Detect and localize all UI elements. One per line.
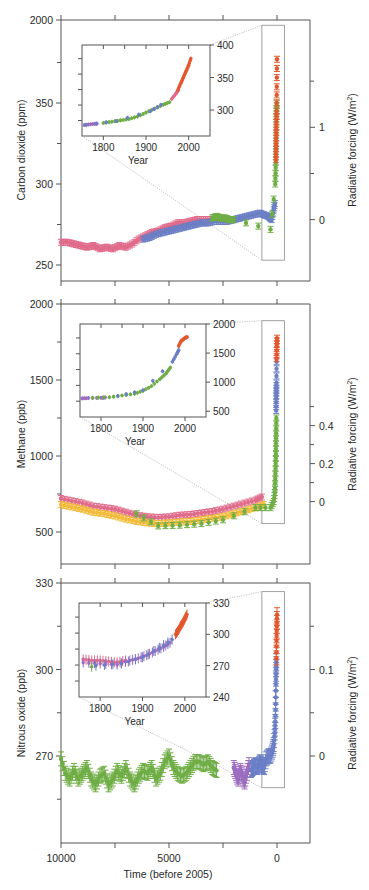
data-point <box>274 456 278 460</box>
right-y-tick-label: 0.2 <box>319 458 334 470</box>
inset-data-point <box>159 103 163 107</box>
data-point <box>149 520 153 524</box>
inset-data-point <box>94 122 98 126</box>
y-tick-label: 1000 <box>30 450 54 462</box>
inset-y-tick-label: 300 <box>217 105 234 116</box>
data-point <box>268 227 272 231</box>
inset-x-tick-label: 1800 <box>92 142 115 153</box>
data-point <box>274 136 278 140</box>
y-tick-label: 1500 <box>30 374 54 386</box>
data-point <box>275 85 279 89</box>
label-part: ) <box>346 93 358 97</box>
data-point <box>275 75 279 79</box>
inset-y-tick-label: 330 <box>213 598 230 609</box>
right-y-tick-label: 0.4 <box>319 420 334 432</box>
inset-x-tick-label: 1900 <box>132 423 155 434</box>
data-point <box>273 477 277 481</box>
inset-data-point <box>141 388 145 392</box>
series <box>140 200 278 242</box>
data-point <box>274 446 278 450</box>
data-point <box>274 152 278 156</box>
data-point <box>270 212 274 216</box>
y-tick-label: 270 <box>35 750 53 762</box>
inset-data-point <box>98 662 102 666</box>
data-point <box>271 197 275 201</box>
inset-data-point <box>124 392 128 396</box>
inset-data-point <box>87 396 91 400</box>
data-point <box>274 441 278 445</box>
data-point <box>214 519 218 523</box>
data-point <box>274 367 278 371</box>
inset-data-point <box>158 646 162 650</box>
data-point <box>178 523 182 527</box>
data-point <box>275 66 279 70</box>
label-part: Radiative forcing (W/m <box>346 663 358 769</box>
data-point <box>274 120 278 124</box>
inset-data-point <box>146 652 150 656</box>
right-axis-label: Radiative forcing (W/m2) <box>346 377 358 491</box>
y-axis-label: Methane (ppb) <box>15 400 27 468</box>
series <box>273 56 280 162</box>
inset-data-point <box>150 384 154 388</box>
inset-y-tick-label: 270 <box>213 661 230 672</box>
data-point <box>274 147 278 151</box>
y-tick-label: 2000 <box>30 14 54 26</box>
data-point <box>232 514 236 518</box>
data-point <box>221 518 225 522</box>
inset-x-tick-label: 1800 <box>89 703 112 714</box>
inset-y-tick-label: 350 <box>217 73 234 84</box>
data-point <box>275 93 279 97</box>
data-point <box>142 516 146 520</box>
data-point <box>273 176 277 180</box>
y-tick-label: 2000 <box>30 298 54 310</box>
right-y-tick-label: 0 <box>319 214 325 226</box>
y-axis-label: Nitrous oxide (ppb) <box>15 669 27 758</box>
data-point <box>163 523 167 527</box>
data-point <box>263 505 267 509</box>
data-point <box>134 512 138 516</box>
inset-y-tick-label: 2000 <box>213 319 236 330</box>
data-point <box>206 520 210 524</box>
y-axis-label: Carbon dioxide (ppm) <box>15 100 27 201</box>
right-axis-label: Radiative forcing (W/m2) <box>346 93 358 207</box>
inset-x-tick-label: 1800 <box>90 423 113 434</box>
inset-data-point <box>170 638 174 642</box>
inset-data-point <box>120 662 124 666</box>
inset-y-tick-label: 400 <box>217 40 234 51</box>
inset-data-point <box>81 661 85 665</box>
x-tick-label: 10000 <box>46 852 75 864</box>
inset-y-tick-label: 300 <box>213 629 230 640</box>
inset-data-point <box>156 105 160 109</box>
y-tick-label: 500 <box>35 526 53 538</box>
data-point <box>258 505 262 509</box>
inset-data-point <box>189 57 193 61</box>
data-point <box>274 166 278 170</box>
series <box>274 335 280 362</box>
inset-data-point <box>152 649 156 653</box>
x-tick-label: 5000 <box>157 852 181 864</box>
data-point <box>260 495 264 499</box>
inset-data-point <box>168 100 172 104</box>
data-point <box>170 523 174 527</box>
inset-y-tick-label: 1500 <box>213 348 236 359</box>
y-tick-label: 330 <box>35 577 53 589</box>
data-point <box>214 768 218 772</box>
data-point <box>275 613 279 617</box>
series <box>248 654 279 778</box>
inset-data-point <box>112 395 116 399</box>
data-point <box>274 451 278 455</box>
data-point <box>185 522 189 526</box>
data-point <box>156 524 160 528</box>
x-tick-label: 0 <box>274 852 280 864</box>
inset-x-tick-label: 1900 <box>131 703 154 714</box>
inset-data-point <box>90 665 94 669</box>
data-point <box>274 114 278 118</box>
inset-data-point <box>116 394 120 398</box>
y-tick-label: 300 <box>35 664 53 676</box>
panel-n2o: 1000050000270300330Nitrous oxide (ppb)00… <box>15 577 358 864</box>
inset-data-point <box>115 663 119 667</box>
inset-data-point <box>127 660 131 664</box>
data-point <box>274 374 278 378</box>
inset-ch4: 180019002000Year500100015002000 <box>76 319 262 524</box>
inset-data-point <box>104 121 108 125</box>
